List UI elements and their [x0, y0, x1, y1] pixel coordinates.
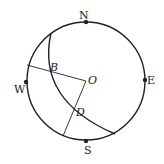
point-s [84, 139, 88, 143]
compass-diagram: N E S W O B D [0, 0, 164, 164]
label-d: D [75, 106, 85, 119]
label-w: W [14, 83, 26, 96]
label-e: E [147, 74, 155, 87]
label-b: B [49, 61, 58, 74]
label-n: N [79, 9, 89, 22]
diagram: N E S W O B D [0, 0, 164, 164]
label-s: S [84, 144, 92, 157]
label-o: O [88, 74, 97, 87]
